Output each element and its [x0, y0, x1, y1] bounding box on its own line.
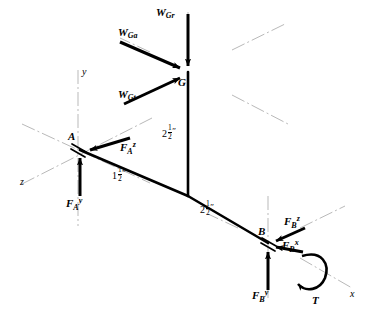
force-label-F-A-y: FAy: [66, 196, 82, 212]
force-label-F-B-x: FBx: [282, 238, 299, 254]
point-label-B: B: [258, 225, 265, 237]
point-label-G: G: [178, 76, 186, 88]
diagram-svg: [0, 0, 373, 324]
force-label-W-Gr: WGr: [156, 6, 175, 20]
point-label-A: A: [68, 130, 75, 142]
reference-axes: [20, 12, 352, 300]
force-label-F-B-y: FBy: [252, 288, 268, 304]
arrow-W-Ga: [120, 42, 180, 68]
axis-label-x: x: [350, 288, 354, 299]
dimension-vertical: 212″: [162, 124, 176, 140]
torque-label-T: T: [312, 294, 319, 306]
dimension-diagonal: 212″: [200, 200, 214, 216]
figure-canvas: G A B y z x WGr WGa WGt FAz FAy FBz FBx …: [0, 0, 373, 324]
force-label-F-A-z: FAz: [120, 140, 136, 156]
axis-label-y: y: [82, 66, 86, 77]
structure-members: [71, 72, 276, 251]
dimension-A-offset: 112″: [112, 166, 126, 182]
force-label-W-Ga: WGa: [118, 26, 138, 40]
member-A-to-joint: [80, 150, 188, 196]
force-label-F-B-z: FBz: [284, 214, 300, 230]
axis-label-z: z: [20, 176, 24, 187]
force-label-W-Gt: WGt: [118, 88, 136, 102]
